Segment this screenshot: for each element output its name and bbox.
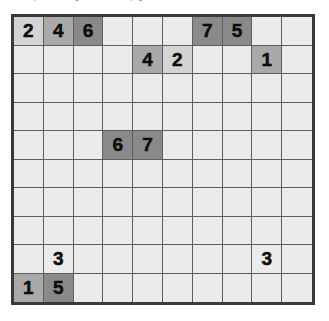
grid-cell-r9-c9[interactable]: 3 xyxy=(252,245,282,274)
grid-cell-r9-c7[interactable] xyxy=(193,245,223,274)
puzzle-grid[interactable]: 24675421673315 xyxy=(11,14,315,305)
grid-cell-r8-c7[interactable] xyxy=(193,217,223,246)
grid-cell-r9-c10[interactable] xyxy=(282,245,312,274)
grid-cell-r7-c4[interactable] xyxy=(103,188,133,217)
grid-cell-r2-c7[interactable] xyxy=(193,46,223,75)
grid-cell-r5-c2[interactable] xyxy=(44,131,74,160)
grid-cell-r7-c1[interactable] xyxy=(14,188,44,217)
grid-cell-r1-c10[interactable] xyxy=(282,17,312,46)
grid-cell-r5-c7[interactable] xyxy=(193,131,223,160)
grid-cell-r3-c2[interactable] xyxy=(44,74,74,103)
grid-cell-r5-c9[interactable] xyxy=(252,131,282,160)
grid-cell-r2-c8[interactable] xyxy=(223,46,253,75)
grid-cell-r10-c4[interactable] xyxy=(103,274,133,303)
grid-cell-r7-c7[interactable] xyxy=(193,188,223,217)
grid-cell-r7-c2[interactable] xyxy=(44,188,74,217)
grid-cell-r4-c9[interactable] xyxy=(252,103,282,132)
grid-cell-r8-c10[interactable] xyxy=(282,217,312,246)
grid-cell-r8-c8[interactable] xyxy=(223,217,253,246)
grid-cell-r5-c3[interactable] xyxy=(74,131,104,160)
grid-cell-r7-c10[interactable] xyxy=(282,188,312,217)
grid-cell-r9-c6[interactable] xyxy=(163,245,193,274)
grid-cell-r10-c6[interactable] xyxy=(163,274,193,303)
grid-cell-r10-c7[interactable] xyxy=(193,274,223,303)
grid-cell-r5-c5[interactable]: 7 xyxy=(133,131,163,160)
grid-cell-r7-c3[interactable] xyxy=(74,188,104,217)
grid-cell-r6-c9[interactable] xyxy=(252,160,282,189)
grid-cell-r7-c5[interactable] xyxy=(133,188,163,217)
grid-cell-r9-c2[interactable]: 3 xyxy=(44,245,74,274)
grid-cell-r4-c3[interactable] xyxy=(74,103,104,132)
grid-cell-r5-c10[interactable] xyxy=(282,131,312,160)
grid-cell-r9-c4[interactable] xyxy=(103,245,133,274)
grid-cell-r8-c1[interactable] xyxy=(14,217,44,246)
grid-cell-r8-c2[interactable] xyxy=(44,217,74,246)
grid-cell-r10-c3[interactable] xyxy=(74,274,104,303)
grid-cell-r3-c6[interactable] xyxy=(163,74,193,103)
grid-cell-r3-c5[interactable] xyxy=(133,74,163,103)
grid-cell-r4-c1[interactable] xyxy=(14,103,44,132)
grid-cell-r6-c7[interactable] xyxy=(193,160,223,189)
grid-cell-r1-c2[interactable]: 4 xyxy=(44,17,74,46)
grid-cell-r5-c4[interactable]: 6 xyxy=(103,131,133,160)
grid-cell-r2-c9[interactable]: 1 xyxy=(252,46,282,75)
grid-cell-r8-c5[interactable] xyxy=(133,217,163,246)
grid-cell-r1-c7[interactable]: 7 xyxy=(193,17,223,46)
grid-cell-r3-c1[interactable] xyxy=(14,74,44,103)
grid-cell-r7-c9[interactable] xyxy=(252,188,282,217)
grid-cell-r1-c4[interactable] xyxy=(103,17,133,46)
grid-cell-r10-c8[interactable] xyxy=(223,274,253,303)
grid-cell-r2-c4[interactable] xyxy=(103,46,133,75)
grid-cell-r4-c10[interactable] xyxy=(282,103,312,132)
grid-cell-r9-c8[interactable] xyxy=(223,245,253,274)
grid-cell-r9-c5[interactable] xyxy=(133,245,163,274)
grid-cell-r8-c6[interactable] xyxy=(163,217,193,246)
grid-cell-r6-c3[interactable] xyxy=(74,160,104,189)
grid-cell-r6-c2[interactable] xyxy=(44,160,74,189)
grid-cell-r7-c8[interactable] xyxy=(223,188,253,217)
grid-cell-r3-c9[interactable] xyxy=(252,74,282,103)
grid-cell-r1-c6[interactable] xyxy=(163,17,193,46)
grid-cell-r10-c1[interactable]: 1 xyxy=(14,274,44,303)
grid-cell-r2-c1[interactable] xyxy=(14,46,44,75)
grid-cell-r3-c8[interactable] xyxy=(223,74,253,103)
grid-cell-r1-c5[interactable] xyxy=(133,17,163,46)
grid-cell-r8-c9[interactable] xyxy=(252,217,282,246)
grid-cell-r5-c6[interactable] xyxy=(163,131,193,160)
grid-cell-r1-c1[interactable]: 2 xyxy=(14,17,44,46)
grid-cell-r8-c3[interactable] xyxy=(74,217,104,246)
grid-cell-r9-c3[interactable] xyxy=(74,245,104,274)
grid-cell-r5-c1[interactable] xyxy=(14,131,44,160)
grid-cell-r4-c5[interactable] xyxy=(133,103,163,132)
grid-cell-r10-c10[interactable] xyxy=(282,274,312,303)
grid-cell-r6-c6[interactable] xyxy=(163,160,193,189)
grid-cell-r1-c8[interactable]: 5 xyxy=(223,17,253,46)
grid-cell-r9-c1[interactable] xyxy=(14,245,44,274)
grid-cell-r6-c10[interactable] xyxy=(282,160,312,189)
grid-cell-r3-c3[interactable] xyxy=(74,74,104,103)
grid-cell-r3-c10[interactable] xyxy=(282,74,312,103)
grid-cell-r2-c10[interactable] xyxy=(282,46,312,75)
grid-cell-r4-c7[interactable] xyxy=(193,103,223,132)
grid-cell-r3-c4[interactable] xyxy=(103,74,133,103)
grid-cell-r2-c5[interactable]: 4 xyxy=(133,46,163,75)
grid-cell-r7-c6[interactable] xyxy=(163,188,193,217)
grid-cell-r10-c9[interactable] xyxy=(252,274,282,303)
grid-cell-r6-c4[interactable] xyxy=(103,160,133,189)
grid-cell-r4-c8[interactable] xyxy=(223,103,253,132)
grid-cell-r5-c8[interactable] xyxy=(223,131,253,160)
grid-cell-r10-c5[interactable] xyxy=(133,274,163,303)
grid-cell-r2-c2[interactable] xyxy=(44,46,74,75)
grid-cell-r4-c4[interactable] xyxy=(103,103,133,132)
grid-cell-r4-c6[interactable] xyxy=(163,103,193,132)
grid-cell-r8-c4[interactable] xyxy=(103,217,133,246)
grid-cell-r6-c1[interactable] xyxy=(14,160,44,189)
grid-cell-r2-c6[interactable]: 2 xyxy=(163,46,193,75)
grid-cell-r6-c8[interactable] xyxy=(223,160,253,189)
grid-cell-r1-c3[interactable]: 6 xyxy=(74,17,104,46)
grid-cell-r10-c2[interactable]: 5 xyxy=(44,274,74,303)
grid-cell-r4-c2[interactable] xyxy=(44,103,74,132)
grid-cell-r2-c3[interactable] xyxy=(74,46,104,75)
grid-cell-r6-c5[interactable] xyxy=(133,160,163,189)
grid-cell-r1-c9[interactable] xyxy=(252,17,282,46)
